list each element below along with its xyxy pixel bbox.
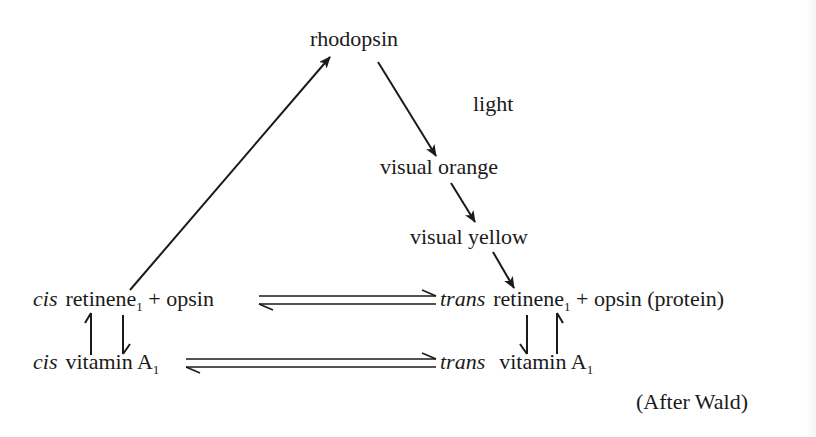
plus-sign: +: [576, 286, 588, 311]
node-trans-retinene-opsin: transretinene1 + opsin (protein): [440, 288, 724, 310]
subscript: 1: [587, 362, 594, 377]
cis-prefix: cis: [33, 286, 57, 311]
plus-sign: +: [148, 286, 160, 311]
node-visual-orange-label: visual orange: [380, 154, 498, 179]
node-visual-orange: visual orange: [380, 156, 498, 178]
subscript: 1: [136, 299, 143, 314]
retinene-name: retinene: [493, 286, 564, 311]
retinene-name: retinene: [65, 286, 136, 311]
subscript: 1: [153, 362, 160, 377]
node-trans-vitamin-a1: transvitamin A1: [440, 351, 593, 373]
node-visual-yellow-label: visual yellow: [410, 224, 528, 249]
attribution: (After Wald): [636, 391, 748, 413]
equilibrium-arrow-vitamin: [186, 353, 436, 373]
trans-prefix: trans: [440, 349, 485, 374]
arrow-visual-orange-to-visual-yellow: [451, 183, 475, 222]
vitamin-name: vitamin A: [65, 349, 152, 374]
node-cis-vitamin-a1: cisvitamin A1: [33, 351, 159, 373]
node-rhodopsin-label: rhodopsin: [310, 26, 398, 51]
arrow-cis-retinene-to-rhodopsin: [130, 57, 330, 290]
opsin-protein-label: opsin (protein): [594, 286, 724, 311]
arrow-visual-yellow-to-trans-retinene: [493, 252, 514, 288]
edge-label-light: light: [473, 93, 513, 115]
opsin-label: opsin: [166, 286, 214, 311]
attribution-text: (After Wald): [636, 389, 748, 414]
page-edge-shadow: [806, 0, 816, 437]
arrow-rhodopsin-to-visual-orange: [378, 62, 436, 156]
equilibrium-arrow-retinene: [259, 290, 436, 310]
subscript: 1: [564, 299, 571, 314]
light-label: light: [473, 91, 513, 116]
vitamin-name: vitamin A: [499, 349, 586, 374]
cis-prefix: cis: [33, 349, 57, 374]
node-visual-yellow: visual yellow: [410, 226, 528, 248]
node-rhodopsin: rhodopsin: [310, 28, 398, 50]
node-cis-retinene-opsin: cisretinene1 + opsin: [33, 288, 214, 310]
diagram-canvas: rhodopsin light visual orange visual yel…: [0, 0, 816, 437]
trans-prefix: trans: [440, 286, 485, 311]
vertical-arrows-trans: [520, 313, 563, 354]
